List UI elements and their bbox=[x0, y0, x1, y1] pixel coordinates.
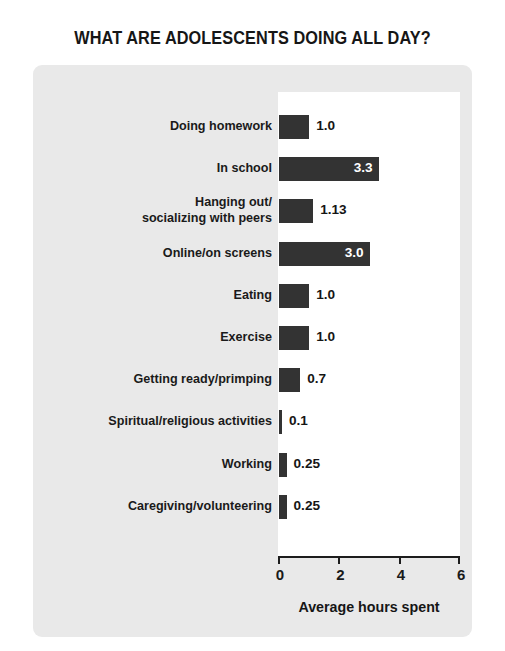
bar-row-label-line2: socializing with peers bbox=[46, 210, 272, 226]
bar bbox=[279, 410, 282, 434]
bar-value-label: 1.0 bbox=[316, 118, 335, 133]
bar-row: Online/on screens3.0 bbox=[0, 240, 505, 282]
x-axis-tick bbox=[338, 556, 340, 564]
x-axis-tick-label: 2 bbox=[325, 566, 355, 583]
x-axis-tick bbox=[458, 556, 460, 564]
bar-value-label: 3.0 bbox=[334, 245, 364, 260]
x-axis-tick bbox=[399, 556, 401, 564]
x-axis-tick bbox=[278, 556, 280, 564]
bar-row-label: In school bbox=[46, 160, 272, 176]
bar-row-label: Online/on screens bbox=[46, 245, 272, 261]
bar-row-label-line1: Hanging out/ bbox=[46, 194, 272, 210]
bar-row-label-line1: Working bbox=[46, 456, 272, 472]
bar-row-label-line1: Eating bbox=[46, 287, 272, 303]
bar-value-label: 0.1 bbox=[289, 413, 308, 428]
bar bbox=[279, 115, 309, 139]
bar-value-label: 1.0 bbox=[316, 287, 335, 302]
x-axis-title: Average hours spent bbox=[283, 598, 456, 615]
bar-value-label: 0.25 bbox=[294, 498, 320, 513]
bar-value-label: 1.13 bbox=[320, 202, 346, 217]
x-axis-tick-label: 0 bbox=[265, 566, 295, 583]
bar-row-label: Hanging out/socializing with peers bbox=[46, 194, 272, 225]
x-axis-tick-label: 4 bbox=[386, 566, 416, 583]
bar-row: Caregiving/volunteering0.25 bbox=[0, 493, 505, 535]
bar-row: Getting ready/primping0.7 bbox=[0, 366, 505, 408]
bar bbox=[279, 368, 300, 392]
bar-row-label: Working bbox=[46, 456, 272, 472]
bar-row-label: Exercise bbox=[46, 329, 272, 345]
bar-row-label: Getting ready/primping bbox=[46, 371, 272, 387]
bar-row-label-line1: Doing homework bbox=[46, 118, 272, 134]
bar-value-label: 3.3 bbox=[343, 160, 373, 175]
bar-row-label-line1: In school bbox=[46, 160, 272, 176]
bar bbox=[279, 495, 287, 519]
bar-row: Working0.25 bbox=[0, 451, 505, 493]
bar-row: Exercise1.0 bbox=[0, 324, 505, 366]
bar-value-label: 0.7 bbox=[307, 371, 326, 386]
bar-row: Doing homework1.0 bbox=[0, 113, 505, 155]
bar-row-label-line1: Spiritual/religious activities bbox=[46, 413, 272, 429]
chart-figure: WHAT ARE ADOLESCENTS DOING ALL DAY? Doin… bbox=[0, 0, 505, 651]
bar-row: Hanging out/socializing with peers1.13 bbox=[0, 197, 505, 239]
bar-row: Spiritual/religious activities0.1 bbox=[0, 408, 505, 450]
bar-row-label-line1: Exercise bbox=[46, 329, 272, 345]
bar-value-label: 1.0 bbox=[316, 329, 335, 344]
bar-row: In school3.3 bbox=[0, 155, 505, 197]
bar bbox=[279, 326, 309, 350]
bar-row-label: Spiritual/religious activities bbox=[46, 413, 272, 429]
chart-title: WHAT ARE ADOLESCENTS DOING ALL DAY? bbox=[18, 28, 488, 49]
bar-row-label-line1: Getting ready/primping bbox=[46, 371, 272, 387]
x-axis-tick-label: 6 bbox=[446, 566, 476, 583]
bar bbox=[279, 199, 313, 223]
bar-value-label: 0.25 bbox=[294, 456, 320, 471]
bar-row: Eating1.0 bbox=[0, 282, 505, 324]
bar bbox=[279, 284, 309, 308]
bar-row-label: Doing homework bbox=[46, 118, 272, 134]
bar-row-label: Caregiving/volunteering bbox=[46, 498, 272, 514]
bar-row-label: Eating bbox=[46, 287, 272, 303]
bar-row-label-line1: Caregiving/volunteering bbox=[46, 498, 272, 514]
x-axis-line bbox=[278, 556, 460, 558]
bar bbox=[279, 453, 287, 477]
bar-row-label-line1: Online/on screens bbox=[46, 245, 272, 261]
